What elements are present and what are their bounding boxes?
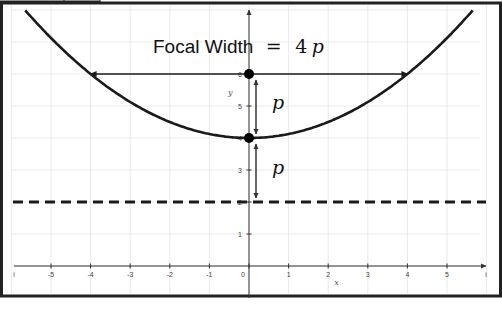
x-axis-label: x (334, 278, 339, 287)
y-axis-label: y (227, 88, 233, 97)
focal-width-equals: = (266, 35, 282, 57)
y-tick-label: 5 (238, 103, 242, 110)
p-label-upper: p (272, 91, 284, 113)
x-tick-label: -4 (87, 271, 93, 278)
focus-point (244, 69, 254, 79)
x-tick-label: -1 (206, 271, 212, 278)
x-tick-label: -2 (167, 271, 173, 278)
x-tick-label: 0 (241, 271, 245, 278)
parabola-diagram: -5-4-3-2-1012345ii123456 x y Focal Width… (0, 0, 502, 313)
x-tick-label: -3 (127, 271, 133, 278)
y-tick-label: 3 (238, 167, 242, 174)
x-tick-label: 1 (287, 271, 291, 278)
x-tick-label: 4 (405, 271, 409, 278)
vertex-point (244, 133, 254, 143)
focal-width-coefficient: 4 (295, 35, 307, 57)
x-tick-label: 2 (326, 271, 330, 278)
x-tick-label: -5 (48, 271, 54, 278)
p-label-lower: p (272, 156, 284, 178)
y-tick-label: 1 (238, 231, 242, 238)
focal-width-title: Focal Width = 4 p (153, 35, 324, 57)
focal-width-title-text: Focal Width (153, 36, 253, 57)
x-tick-label: 5 (445, 271, 449, 278)
focal-width-variable: p (312, 35, 324, 57)
x-tick-label: 3 (366, 271, 370, 278)
